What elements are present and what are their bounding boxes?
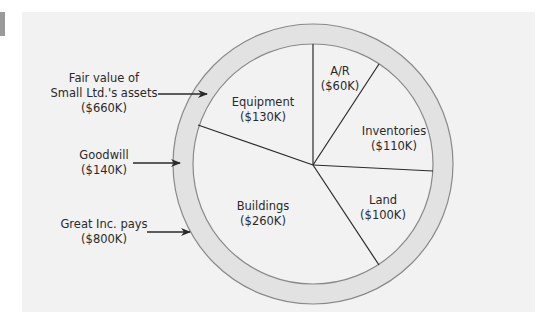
fair-value-label: Fair value of Small Ltd.'s assets ($660K…: [51, 71, 158, 116]
slice-value: ($60K): [321, 79, 359, 94]
fair-value-amount: ($660K): [51, 101, 158, 116]
slice-name: Land: [360, 193, 406, 208]
slice-label-ar: A/R ($60K): [321, 64, 359, 94]
slice-name: Buildings: [237, 199, 290, 214]
slice-label-buildings: Buildings ($260K): [237, 199, 290, 229]
goodwill-amount: ($140K): [79, 163, 128, 178]
slice-label-inventories: Inventories ($110K): [362, 124, 426, 154]
slice-name: A/R: [321, 64, 359, 79]
price-paid-amount: ($800K): [60, 232, 147, 247]
fair-value-line2: Small Ltd.'s assets: [51, 86, 158, 101]
slice-value: ($110K): [362, 139, 426, 154]
slice-value: ($100K): [360, 208, 406, 223]
slice-name: Equipment: [232, 95, 294, 110]
price-paid-title: Great Inc. pays: [60, 217, 147, 232]
slice-label-equipment: Equipment ($130K): [232, 95, 294, 125]
fair-value-line1: Fair value of: [51, 71, 158, 86]
slice-label-land: Land ($100K): [360, 193, 406, 223]
slice-name: Inventories: [362, 124, 426, 139]
goodwill-title: Goodwill: [79, 148, 128, 163]
price-paid-label: Great Inc. pays ($800K): [60, 217, 147, 247]
goodwill-label: Goodwill ($140K): [79, 148, 128, 178]
slice-value: ($260K): [237, 214, 290, 229]
slice-value: ($130K): [232, 110, 294, 125]
